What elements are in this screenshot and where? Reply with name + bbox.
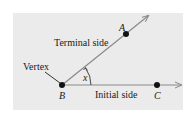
initial-side-label: Initial side xyxy=(95,89,138,100)
angle-diagram: Terminal side Vertex Initial side x A B … xyxy=(0,0,189,114)
point-a-label: A xyxy=(118,22,126,33)
point-b-label: B xyxy=(59,90,65,101)
vertex-pointer-line xyxy=(45,72,60,83)
angle-label: x xyxy=(82,72,88,83)
point-b xyxy=(59,82,65,88)
point-c xyxy=(154,82,160,88)
vertex-label: Vertex xyxy=(23,61,49,72)
point-c-label: C xyxy=(154,90,161,101)
terminal-side-ray xyxy=(62,16,148,85)
terminal-side-label: Terminal side xyxy=(54,37,109,48)
